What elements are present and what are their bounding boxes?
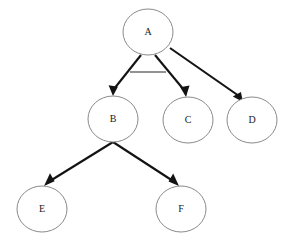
- node-e[interactable]: E: [17, 186, 67, 232]
- node-b-label: B: [110, 113, 117, 124]
- node-d-label: D: [248, 114, 255, 125]
- diagram-canvas: A B C D E F: [0, 0, 302, 243]
- node-group: A B C D E F: [17, 9, 277, 232]
- edge-b-to-f-arrowhead: [169, 173, 180, 186]
- node-f-label: F: [178, 203, 184, 214]
- edge-b-to-f-line: [113, 142, 173, 181]
- edge-a-to-b: [109, 55, 141, 96]
- edge-a-to-b-arrowhead: [109, 85, 118, 96]
- edge-a-to-d: [170, 48, 243, 102]
- node-f[interactable]: F: [156, 186, 206, 232]
- tree-diagram-svg: A B C D E F: [0, 0, 302, 243]
- node-c-label: C: [185, 114, 192, 125]
- edge-a-to-c-arrowhead: [180, 86, 189, 97]
- edge-a-to-c: [155, 55, 190, 97]
- node-a[interactable]: A: [123, 9, 173, 55]
- edge-b-to-f: [113, 142, 179, 186]
- node-c[interactable]: C: [163, 97, 213, 143]
- node-a-label: A: [144, 26, 152, 37]
- edge-b-to-e-arrowhead: [44, 173, 55, 186]
- node-b[interactable]: B: [88, 96, 138, 142]
- node-e-label: E: [39, 203, 45, 214]
- node-d[interactable]: D: [227, 97, 277, 143]
- edge-b-to-e: [44, 142, 113, 186]
- edge-a-to-d-line: [170, 48, 239, 96]
- edge-b-to-e-line: [50, 142, 113, 181]
